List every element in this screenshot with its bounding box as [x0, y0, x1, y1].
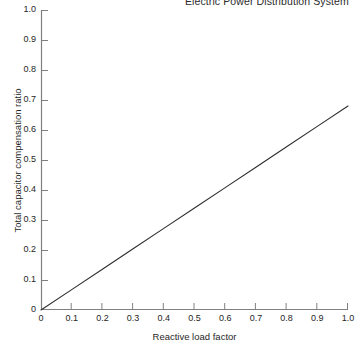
y-tick-label: 0.7 — [23, 95, 36, 104]
x-axis-title: Reactive load factor — [41, 331, 348, 342]
x-tick-label: 0.7 — [250, 314, 263, 323]
x-tick-label: 1.0 — [342, 314, 355, 323]
y-tick-label: 0.2 — [23, 245, 36, 254]
y-tick-label: 0.4 — [23, 185, 36, 194]
y-tick-label: 1.0 — [23, 5, 36, 14]
data-series-group — [41, 106, 348, 310]
x-tick-label: 0.5 — [188, 314, 201, 323]
x-tick-label: 0.1 — [65, 314, 78, 323]
y-tick-label: 0.1 — [23, 275, 36, 284]
x-tick-label: 0.6 — [219, 314, 232, 323]
x-tick-label: 0 — [38, 314, 43, 323]
chart-title: Electric Power Distribution System — [185, 0, 349, 7]
y-axis-title: Total capacitor compensation ratio — [12, 51, 23, 271]
x-tick-label: 0.9 — [311, 314, 324, 323]
tick-marks — [42, 11, 348, 310]
data-series-line — [41, 106, 348, 310]
x-tick-label: 0.4 — [158, 314, 171, 323]
axis-lines — [41, 10, 348, 310]
y-tick-label: 0.6 — [23, 125, 36, 134]
x-axis-tick-labels: 00.10.20.30.40.50.60.70.80.91.0 — [41, 314, 348, 328]
y-tick-label: 0 — [31, 305, 36, 314]
chart-canvas — [41, 10, 348, 310]
y-tick-label: 0.3 — [23, 215, 36, 224]
y-tick-label: 0.8 — [23, 65, 36, 74]
x-tick-label: 0.8 — [280, 314, 293, 323]
x-tick-label: 0.2 — [96, 314, 109, 323]
plot-area — [41, 10, 348, 310]
y-tick-label: 0.5 — [23, 155, 36, 164]
chart-figure: Electric Power Distribution System 00.10… — [0, 0, 361, 344]
y-tick-label: 0.9 — [23, 35, 36, 44]
x-tick-label: 0.3 — [127, 314, 140, 323]
